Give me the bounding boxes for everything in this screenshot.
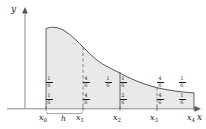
weight-bottom-4: 4 6	[155, 93, 165, 106]
tick-label-x3: x3	[150, 114, 158, 122]
weight-top-1: 1 6	[44, 76, 54, 89]
weight-bottom-5-denominator: 6	[177, 100, 187, 106]
weight-bottom-1-denominator: 6	[44, 100, 54, 106]
weight-bottom-2: 4 6	[81, 93, 91, 106]
weight-top-3-denominator: 6	[103, 83, 113, 89]
weight-top-5: 4 6	[155, 76, 165, 89]
weight-bottom-5: 1 6	[177, 93, 187, 106]
weight-top-4: 1 6	[118, 76, 128, 89]
weight-top-2: 4 6	[81, 76, 91, 89]
weight-top-6-denominator: 6	[177, 83, 187, 89]
weight-top-3: 1 6	[103, 76, 113, 89]
x-axis-label: x	[197, 113, 202, 122]
weight-top-1-denominator: 6	[44, 83, 54, 89]
x-axis-arrowhead	[195, 106, 201, 112]
tick-label-x0: x0	[39, 114, 47, 122]
tick-label-x1: x1	[76, 114, 84, 122]
weight-bottom-2-denominator: 6	[81, 100, 91, 106]
weight-bottom-3: 2 6	[118, 93, 128, 106]
simpsons-rule-figure: y x x0 x1 x2 x3 x4 h 1 6 4 6 1 6 1 6 4 6…	[0, 0, 206, 129]
step-size-label: h	[61, 115, 66, 123]
weight-bottom-4-denominator: 6	[155, 100, 165, 106]
y-axis-arrowhead	[22, 7, 28, 13]
weight-top-2-denominator: 6	[81, 83, 91, 89]
tick-label-x4: x4	[187, 114, 195, 122]
y-axis-label: y	[11, 5, 16, 14]
weight-top-6: 1 6	[177, 76, 187, 89]
figure-canvas	[0, 0, 206, 129]
weight-bottom-3-denominator: 6	[118, 100, 128, 106]
weight-bottom-1: 1 6	[44, 93, 54, 106]
weight-top-5-denominator: 6	[155, 83, 165, 89]
tick-label-x2: x2	[113, 114, 121, 122]
weight-top-4-denominator: 6	[118, 83, 128, 89]
